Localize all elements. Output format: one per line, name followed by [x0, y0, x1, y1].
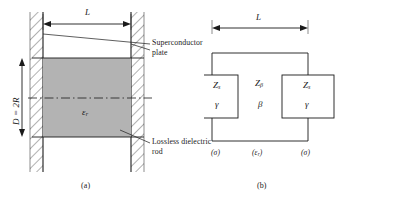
middle-impedance-subscript: β [260, 82, 263, 88]
middle-material-label: (εr) [252, 148, 262, 160]
panel-b-caption: (b) [257, 181, 267, 191]
right-block-propagation-label: γ [305, 100, 309, 110]
dielectric-rod [43, 58, 131, 137]
right-block-material-label: (σ) [301, 148, 310, 158]
left-impedance-subscript: s [218, 84, 220, 90]
permittivity-subscript: r [86, 111, 88, 117]
panel-a-length-label: L [85, 8, 90, 18]
middle-impedance-label: Zβ [255, 79, 263, 91]
middle-material-close-paren: ) [260, 148, 263, 157]
left-superconductor-wall [30, 12, 43, 172]
panel-b: L Zs γ (σ) Zβ β (εr) Zs γ (σ) (b) [204, 0, 407, 205]
panel-a: L D = 2R εr Superconductor plate Lossles… [0, 0, 204, 205]
left-block-propagation-label: γ [215, 100, 219, 110]
rod-permittivity-label: εr [82, 108, 88, 120]
panel-b-length-label: L [256, 13, 261, 23]
figure-container: L D = 2R εr Superconductor plate Lossles… [0, 0, 407, 205]
panel-a-diameter-label: D = 2R [12, 97, 22, 125]
panel-a-drawing [0, 0, 204, 205]
right-block-impedance-label: Zs [303, 81, 311, 93]
left-impedance-block [204, 75, 238, 118]
right-impedance-subscript: s [308, 84, 310, 90]
middle-propagation-label: β [258, 100, 263, 110]
right-superconductor-wall [131, 12, 144, 172]
panel-a-caption: (a) [81, 181, 90, 191]
left-block-impedance-label: Zs [213, 81, 221, 93]
left-block-material-label: (σ) [211, 148, 220, 158]
